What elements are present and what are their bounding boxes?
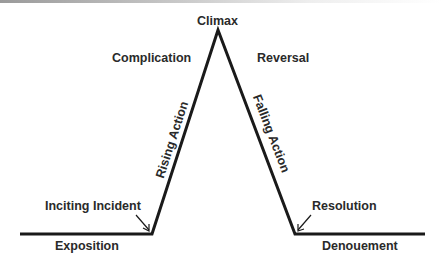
inciting-incident-label: Inciting Incident xyxy=(45,200,141,213)
climax-label: Climax xyxy=(197,15,238,28)
exposition-label: Exposition xyxy=(55,240,119,253)
pyramid-diagram xyxy=(0,0,441,262)
complication-label: Complication xyxy=(112,52,191,65)
inciting-incident-arrow-icon xyxy=(136,215,149,231)
resolution-arrow-icon xyxy=(298,215,311,231)
denouement-label: Denouement xyxy=(322,240,398,253)
reversal-label: Reversal xyxy=(257,52,309,65)
resolution-label: Resolution xyxy=(312,200,377,213)
